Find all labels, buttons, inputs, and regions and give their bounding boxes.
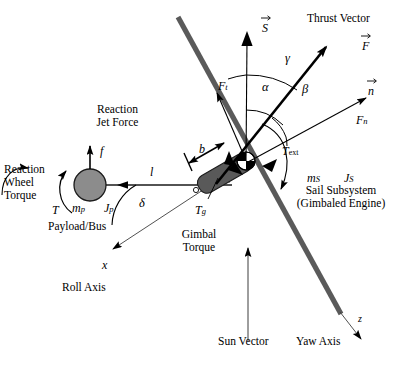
sail-subsystem-label: Sail Subsystem (Gimbaled Engine) (283, 184, 399, 210)
jet-force-symbol: f (100, 145, 103, 158)
offset-b-dimension (189, 143, 224, 163)
angle-gamma-symbol: γ (285, 51, 290, 65)
payload-bus-body (74, 169, 106, 201)
payload-mass-symbol: mp (72, 198, 85, 216)
thrust-force-symbol: F (362, 36, 369, 54)
reaction-wheel-torque-label: Reaction Wheel Torque (4, 163, 70, 202)
sun-unit-vector-S-head (241, 31, 252, 46)
roll-axis-label: Roll Axis (62, 281, 106, 294)
vector-overbar-icon (361, 33, 372, 39)
thrust-vector-label: Thrust Vector (307, 12, 370, 25)
wheel-torque-symbol: T (52, 204, 59, 217)
normal-unit-vector-n (248, 98, 366, 162)
reaction-jet-force-label: Reaction Jet Force (75, 103, 160, 129)
vector-overbar-icon (261, 15, 272, 21)
sail-line (178, 17, 341, 314)
yaw-axis-symbol: z (358, 313, 362, 324)
arm-length-symbol: l (150, 166, 153, 179)
engine-nozzle (193, 187, 198, 192)
tangential-force-vector (217, 93, 245, 158)
payload-inertia-symbol: Jp (104, 198, 114, 216)
payload-bus-label: Payload/Bus (48, 220, 106, 233)
vector-overbar-icon (367, 78, 378, 84)
normal-unit-vector-symbol: n (368, 81, 374, 99)
normal-force-symbol: Fn (356, 110, 368, 128)
gimbal-torque-symbol: Tg (195, 200, 206, 218)
gimbal-angle-symbol: δ (139, 196, 145, 210)
gimbal-angle-arc (112, 185, 136, 225)
arm-arrowhead-left (117, 181, 128, 189)
solar-sail-dynamics-diagram: Reaction Jet Force f Reaction Wheel Torq… (0, 0, 401, 367)
sun-vector-label: Sun Vector (218, 335, 269, 348)
angle-gamma-arc (246, 75, 297, 90)
gimbal-torque-label: Gimbal Torque (166, 228, 232, 254)
offset-b-symbol: b (199, 143, 205, 156)
angle-alpha-symbol: α (262, 80, 269, 94)
yaw-axis-label: Yaw Axis (296, 335, 341, 348)
angle-beta-symbol: β (302, 82, 308, 96)
tangential-force-symbol: Ft (218, 76, 228, 94)
angle-gamma-arc2 (228, 75, 246, 79)
external-torque-symbol: Text (282, 141, 298, 159)
sun-unit-vector-symbol: S (262, 18, 268, 36)
roll-axis-symbol: x (102, 259, 107, 272)
